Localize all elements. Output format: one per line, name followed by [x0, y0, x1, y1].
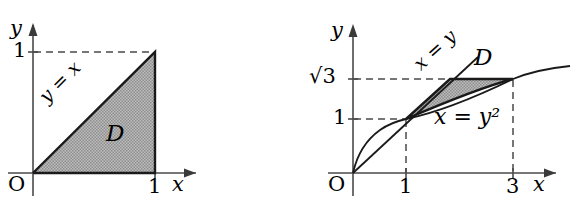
- y-axis-arrow-right: [349, 24, 358, 37]
- y-axis-arrow-left: [29, 23, 38, 36]
- math-figure-svg: [0, 0, 576, 206]
- y-tick-label-sqrt3-right: √3: [309, 64, 336, 88]
- panel-left: [8, 23, 196, 196]
- figure-canvas: y x O 1 1 y = x D y x O √3 1 1 3 x = y x…: [0, 0, 576, 206]
- origin-label-left: O: [8, 172, 25, 196]
- x-tick-label-3-right: 3: [506, 174, 519, 198]
- y-axis-label-right: y: [331, 18, 343, 42]
- y-tick-label-1-right: 1: [333, 105, 346, 129]
- region-label-d-right: D: [474, 44, 492, 70]
- x-axis-label-right: x: [533, 172, 545, 196]
- y-tick-label-1-left: 1: [13, 38, 26, 62]
- origin-label-right: O: [328, 172, 345, 196]
- x-axis-label-left: x: [172, 172, 184, 196]
- x-tick-label-1-left: 1: [148, 174, 161, 198]
- y-axis-label-left: y: [10, 16, 22, 40]
- x-tick-label-1-right: 1: [399, 174, 412, 198]
- x-axis-arrow-right: [544, 169, 556, 178]
- region-label-d-left: D: [106, 120, 124, 146]
- x-axis-arrow-left: [184, 169, 196, 178]
- curve-label-x-equals-y-squared: x = y²: [434, 104, 500, 129]
